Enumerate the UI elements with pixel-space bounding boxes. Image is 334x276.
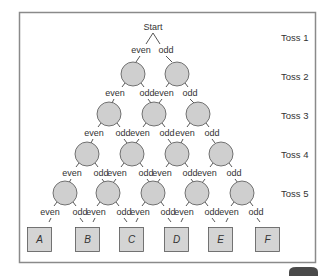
node bbox=[186, 102, 210, 126]
toss-4-label: Toss 4 bbox=[281, 149, 308, 160]
node bbox=[121, 62, 145, 86]
branch-label-odd: odd bbox=[182, 88, 197, 98]
branch-label-even: even bbox=[105, 88, 125, 98]
toss-3-label: Toss 3 bbox=[281, 110, 308, 121]
node bbox=[96, 181, 120, 205]
node bbox=[75, 142, 99, 166]
toss-5-label: Toss 5 bbox=[281, 188, 308, 199]
outcome-label-b: B bbox=[84, 234, 91, 245]
outcome-label-e: E bbox=[217, 234, 224, 245]
branch-label-odd: odd bbox=[139, 88, 154, 98]
branch-label-odd: odd bbox=[204, 128, 219, 138]
toss-1-label: Toss 1 bbox=[281, 32, 308, 43]
branch-label-even: even bbox=[174, 207, 194, 217]
branch-label-even: even bbox=[131, 45, 151, 55]
node bbox=[53, 181, 77, 205]
branch-label-even: even bbox=[175, 128, 195, 138]
node bbox=[142, 102, 166, 126]
node bbox=[97, 102, 121, 126]
branch-label-odd: odd bbox=[159, 128, 174, 138]
branch-label-even: even bbox=[130, 207, 150, 217]
outcome-label-c: C bbox=[128, 234, 136, 245]
node bbox=[120, 142, 144, 166]
probability-tree-diagram: Start even odd even odd even odd even od… bbox=[0, 0, 334, 276]
node bbox=[185, 181, 209, 205]
branch-label-even: even bbox=[130, 128, 150, 138]
branch-label-even: even bbox=[86, 207, 106, 217]
outcome-label-d: D bbox=[173, 234, 180, 245]
branch-label-even: even bbox=[152, 168, 172, 178]
outcome-label-f: F bbox=[264, 234, 271, 245]
branch-label-even: even bbox=[40, 207, 60, 217]
node bbox=[165, 62, 189, 86]
toss-2-label: Toss 2 bbox=[281, 71, 308, 82]
branch-label-odd: odd bbox=[226, 168, 241, 178]
branch-label-even: even bbox=[219, 207, 239, 217]
branch-label-even: even bbox=[197, 168, 217, 178]
branch-label-even: even bbox=[107, 168, 127, 178]
start-label: Start bbox=[143, 22, 163, 32]
outcome-label-a: A bbox=[35, 234, 43, 245]
branch-label-odd: odd bbox=[115, 128, 130, 138]
node bbox=[141, 181, 165, 205]
branch-label-even: even bbox=[62, 168, 82, 178]
node bbox=[230, 181, 254, 205]
branch-label-odd: odd bbox=[248, 207, 263, 217]
branch-label-odd: odd bbox=[204, 207, 219, 217]
branch-label-odd: odd bbox=[182, 168, 197, 178]
corner-badge bbox=[289, 267, 318, 276]
node bbox=[165, 142, 189, 166]
branch-label-even: even bbox=[154, 88, 174, 98]
branch-label-even: even bbox=[84, 128, 104, 138]
branch-label-odd: odd bbox=[158, 45, 173, 55]
node bbox=[209, 142, 233, 166]
